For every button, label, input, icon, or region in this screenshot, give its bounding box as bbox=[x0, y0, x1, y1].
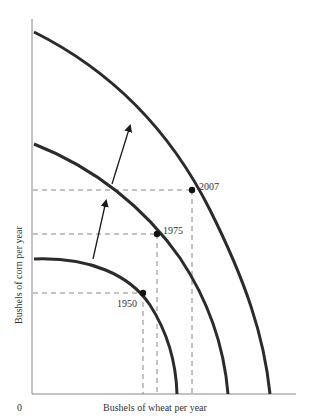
ppf-chart: 1950 1975 2007 0 Bushels of wheat per ye… bbox=[0, 0, 312, 418]
origin-label: 0 bbox=[17, 402, 22, 413]
shift-arrow-1 bbox=[93, 201, 106, 259]
x-axis-label: Bushels of wheat per year bbox=[103, 402, 208, 413]
point-1975 bbox=[154, 231, 160, 237]
shift-arrow-2 bbox=[112, 126, 130, 184]
y-axis-label: Bushels of corn per year bbox=[13, 226, 24, 324]
label-2007: 2007 bbox=[199, 181, 219, 192]
label-1975: 1975 bbox=[163, 225, 183, 236]
point-2007 bbox=[189, 187, 195, 193]
guide-lines bbox=[33, 190, 192, 394]
ppf-curve-2007 bbox=[34, 32, 270, 394]
ppf-curve-1950 bbox=[34, 259, 177, 394]
label-1950: 1950 bbox=[117, 298, 137, 309]
point-1950 bbox=[140, 290, 146, 296]
